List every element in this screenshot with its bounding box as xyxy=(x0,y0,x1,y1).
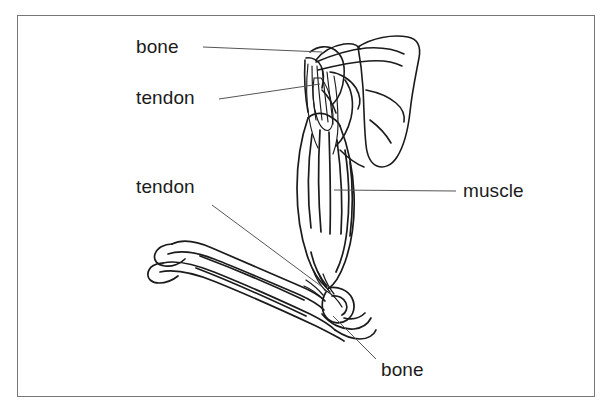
label-bone-top: bone xyxy=(136,37,179,56)
muscle-fiber-c xyxy=(329,132,330,234)
label-bone-bottom: bone xyxy=(381,360,424,379)
scapula-inner-contour xyxy=(366,90,404,122)
forearm-inner-line-2 xyxy=(196,268,306,316)
forearm-inner-line xyxy=(200,256,304,300)
scapula-lower-notch xyxy=(340,150,364,167)
anatomy-illustration xyxy=(0,0,603,411)
muscle-shading-right-2 xyxy=(350,162,352,236)
elbow-joint-cleft xyxy=(332,296,347,315)
scapula-inner-shadow xyxy=(370,120,391,143)
label-tendon-lower: tendon xyxy=(136,177,195,196)
elbow-joint-group xyxy=(322,287,371,329)
radius-outline xyxy=(172,241,325,301)
humerus-greater-tubercle xyxy=(306,58,323,88)
humerus-head-group xyxy=(305,47,345,113)
muscle-fiber-a xyxy=(308,134,312,228)
label-muscle: muscle xyxy=(463,181,524,200)
scapula-spine-lower xyxy=(318,61,402,70)
tendon-fiber-2 xyxy=(317,66,322,120)
radius-lower-edge xyxy=(168,252,324,310)
elbow-condyle xyxy=(322,287,354,322)
scapula-blade-outline xyxy=(358,36,420,167)
label-tendon-top: tendon xyxy=(136,88,195,107)
ulna-lower-edge xyxy=(160,271,344,341)
olecranon xyxy=(344,313,365,319)
elbow-lower-arc xyxy=(322,314,371,329)
muscle-top-cap xyxy=(308,113,340,126)
muscle-belly-group xyxy=(297,113,354,289)
muscle-fiber-d xyxy=(337,140,342,234)
leader-bone-top xyxy=(203,47,322,52)
diagram-page: bone tendon tendon muscle bone xyxy=(0,0,603,411)
muscle-fiber-b xyxy=(319,130,321,232)
forearm-distal-join xyxy=(335,330,376,339)
